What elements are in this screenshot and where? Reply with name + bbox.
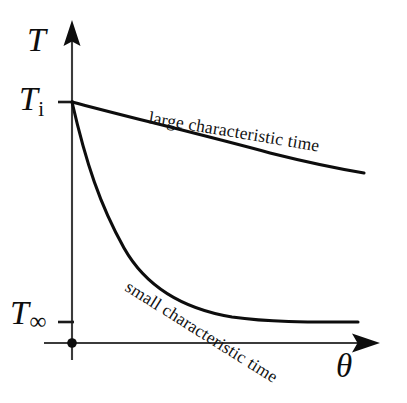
small-characteristic-time-label: small characteristic time xyxy=(122,276,282,386)
figure-svg: large characteristic time small characte… xyxy=(0,0,407,403)
y-axis-label: T xyxy=(27,23,46,57)
y-axis-tick-label-ambient: T∞ xyxy=(10,296,46,330)
large-characteristic-time-label: large characteristic time xyxy=(147,107,321,155)
ambient-temperature-subscript: ∞ xyxy=(29,308,46,334)
y-axis-label-text: T xyxy=(27,21,46,58)
y-axis-tick-label-initial: Ti xyxy=(19,82,44,116)
ambient-temperature-symbol: T xyxy=(10,294,29,331)
initial-temperature-subscript: i xyxy=(38,97,44,121)
x-axis-label: θ xyxy=(336,350,352,383)
origin-dot xyxy=(67,338,77,348)
initial-temperature-symbol: T xyxy=(19,80,38,117)
x-axis-label-text: θ xyxy=(336,348,352,384)
figure-container: large characteristic time small characte… xyxy=(0,0,407,403)
